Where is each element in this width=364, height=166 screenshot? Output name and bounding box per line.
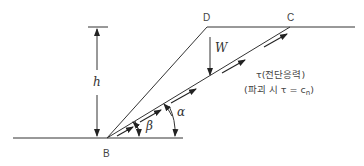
alpha-label: α — [177, 105, 185, 119]
slope-face-line — [107, 27, 207, 138]
beta-label: β — [145, 119, 153, 133]
point-label-b: B — [103, 148, 110, 159]
point-label-d: D — [203, 12, 210, 23]
failure-plane-line — [107, 27, 290, 138]
height-label: h — [93, 75, 101, 89]
slope-diagram: h W β α B D C τ(전단응력) (파괴 시 τ = cn) — [0, 0, 364, 166]
weight-label: W — [215, 41, 229, 55]
shear-stress-label: τ(전단응력) — [256, 69, 305, 80]
failure-condition-label: (파괴 시 τ = cn) — [244, 84, 314, 97]
alpha-arc-down — [169, 106, 175, 136]
point-label-c: C — [287, 12, 294, 23]
